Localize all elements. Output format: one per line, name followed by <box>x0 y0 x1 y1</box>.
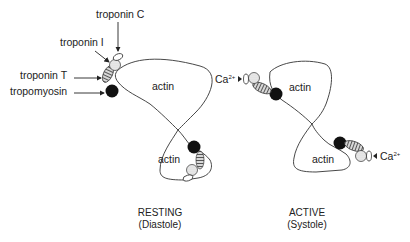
resting-state: actin actin troponin C troponin I tropon… <box>10 8 212 230</box>
resting-caption: RESTING <box>138 207 183 218</box>
calcium-arrow-bottom <box>373 153 377 159</box>
tropomyosin-icon-active <box>270 88 283 101</box>
calcium-arrow-top <box>238 76 242 82</box>
troponin-t-label: troponin T <box>20 69 68 81</box>
troponin-i-icon-active <box>249 73 260 84</box>
tropomyosin-icon <box>106 85 119 98</box>
troponin-i-icon-bottom <box>187 165 198 176</box>
actin-top-label-active: actin <box>289 81 311 93</box>
troponin-c-icon-active-bottom <box>367 151 372 161</box>
active-caption: ACTIVE <box>289 207 325 218</box>
actin-bottom-label-active: actin <box>312 153 334 165</box>
tropomyosin-label: tropomyosin <box>10 85 67 97</box>
actin-top-outline-resting <box>115 59 212 130</box>
troponin-i-icon <box>110 60 121 71</box>
troponin-i-arrow <box>95 51 109 62</box>
troponin-t-icon-bottom <box>196 151 204 169</box>
actin-top-label-resting: actin <box>152 80 174 92</box>
calcium-label-top: Ca2+ <box>215 73 236 85</box>
systole-caption: (Systole) <box>287 219 326 230</box>
troponin-i-label: troponin I <box>60 36 104 48</box>
diastole-caption: (Diastole) <box>139 219 182 230</box>
troponin-c-icon <box>112 52 124 62</box>
troponin-diagram: actin actin troponin C troponin I tropon… <box>0 0 410 242</box>
actin-bottom-label-resting: actin <box>158 153 180 165</box>
troponin-i-icon-active-bottom <box>356 151 367 162</box>
troponin-c-icon-bottom <box>182 174 193 182</box>
troponin-c-label: troponin C <box>96 8 145 20</box>
troponin-c-icon-active <box>244 74 249 84</box>
active-state: actin actin Ca2+ Ca2+ ACTIVE (Systole) <box>215 61 401 230</box>
calcium-label-bottom: Ca2+ <box>380 150 401 162</box>
